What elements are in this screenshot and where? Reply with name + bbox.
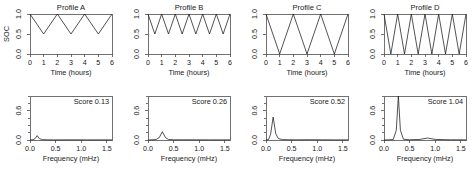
x-tick-label: 1.0 — [76, 145, 86, 153]
x-tick-label: 1 — [278, 59, 282, 67]
x-tick-label: 0.0 — [379, 145, 389, 153]
x-axis-title: Time (hours) — [286, 68, 327, 77]
soc-waveform — [384, 14, 466, 54]
x-tick-label: 1.5 — [338, 145, 348, 153]
x-tick-label: 1.5 — [102, 145, 112, 153]
frequency-spectrum-panel-3: 0.00.60.00.51.01.5Frequency (mHz)Score 0… — [236, 86, 354, 172]
x-tick-label: 4 — [83, 59, 87, 67]
x-tick-label: 0.5 — [169, 145, 179, 153]
x-axis-title: Time (hours) — [404, 68, 445, 77]
soc-waveform — [148, 14, 230, 34]
y-tick-label: 0.5 — [251, 29, 259, 39]
frequency-spectrum-panel-1: 0.00.60.00.51.01.5Frequency (mHz)Score 0… — [0, 86, 118, 172]
y-tick-label: 0.5 — [15, 29, 23, 39]
x-tick-label: 4 — [437, 59, 441, 67]
x-tick-label: 3 — [69, 59, 73, 67]
x-tick-label: 0 — [382, 59, 386, 67]
score-annotation: Score 1.04 — [428, 97, 463, 106]
x-tick-label: 2 — [409, 59, 413, 67]
x-tick-label: 1.0 — [430, 145, 440, 153]
soc-profile-panel-c: 0.00.51.00123456Time (hours)Profile C — [236, 0, 354, 86]
x-axis-title: Frequency (mHz) — [397, 154, 453, 163]
x-tick-label: 1 — [396, 59, 400, 67]
x-tick-label: 4 — [201, 59, 205, 67]
x-tick-label: 5 — [96, 59, 100, 67]
y-tick-label: 0.0 — [251, 135, 259, 145]
x-tick-label: 2 — [173, 59, 177, 67]
soc-waveform — [30, 14, 112, 34]
x-tick-label: 0.0 — [25, 145, 35, 153]
x-tick-label: 0.5 — [51, 145, 61, 153]
x-axis-title: Time (hours) — [50, 68, 91, 77]
x-axis-title: Frequency (mHz) — [161, 154, 217, 163]
y-tick-label: 0.0 — [15, 135, 23, 145]
plot-frame — [148, 14, 230, 54]
x-tick-label: 2 — [291, 59, 295, 67]
x-tick-label: 0.0 — [143, 145, 153, 153]
y-tick-label: 0.5 — [369, 29, 377, 39]
x-tick-label: 1.0 — [194, 145, 204, 153]
x-tick-label: 0.5 — [405, 145, 415, 153]
y-tick-label: 0.6 — [133, 106, 141, 116]
plot-frame — [266, 14, 348, 54]
y-tick-label: 1.0 — [369, 9, 377, 19]
y-tick-label: 0.0 — [369, 135, 377, 145]
x-tick-label: 6 — [464, 59, 468, 67]
figure-panel-grid: 0.00.51.00123456Time (hours)SOCProfile A… — [0, 0, 472, 172]
y-tick-label: 0.0 — [15, 49, 23, 59]
soc-profile-panel-d: 0.00.51.00123456Time (hours)Profile D — [354, 0, 472, 86]
score-annotation: Score 0.52 — [310, 97, 345, 106]
spectrum-trace — [266, 117, 348, 140]
x-tick-label: 1 — [42, 59, 46, 67]
x-tick-label: 1.5 — [456, 145, 466, 153]
frequency-spectrum-panel-2: 0.00.60.00.51.01.5Frequency (mHz)Score 0… — [118, 86, 236, 172]
y-tick-label: 0.0 — [369, 49, 377, 59]
x-tick-label: 6 — [346, 59, 350, 67]
x-tick-label: 4 — [319, 59, 323, 67]
y-tick-label: 0.6 — [251, 106, 259, 116]
panel-title: Profile B — [175, 3, 204, 12]
y-tick-label: 0.0 — [133, 135, 141, 145]
x-tick-label: 5 — [214, 59, 218, 67]
x-tick-label: 0.5 — [287, 145, 297, 153]
score-annotation: Score 0.26 — [192, 97, 227, 106]
x-tick-label: 1 — [160, 59, 164, 67]
spectrum-trace — [30, 136, 112, 140]
x-tick-label: 1.0 — [312, 145, 322, 153]
x-tick-label: 1.5 — [220, 145, 230, 153]
y-tick-label: 0.5 — [133, 29, 141, 39]
x-axis-title: Frequency (mHz) — [279, 154, 335, 163]
y-tick-label: 0.6 — [15, 106, 23, 116]
x-tick-label: 0.0 — [261, 145, 271, 153]
frequency-spectrum-panel-4: 0.00.60.00.51.01.5Frequency (mHz)Score 1… — [354, 86, 472, 172]
y-axis-title: SOC — [2, 26, 11, 42]
x-axis-title: Frequency (mHz) — [43, 154, 99, 163]
x-tick-label: 5 — [450, 59, 454, 67]
y-tick-label: 0.0 — [133, 49, 141, 59]
spectrum-trace — [148, 132, 230, 140]
panel-title: Profile C — [292, 3, 322, 12]
soc-waveform — [266, 14, 348, 54]
x-tick-label: 3 — [423, 59, 427, 67]
y-tick-label: 0.0 — [251, 49, 259, 59]
x-tick-label: 5 — [332, 59, 336, 67]
soc-profile-panel-a: 0.00.51.00123456Time (hours)SOCProfile A — [0, 0, 118, 86]
x-tick-label: 0 — [146, 59, 150, 67]
x-tick-label: 3 — [305, 59, 309, 67]
y-tick-label: 0.6 — [369, 106, 377, 116]
y-tick-label: 1.0 — [251, 9, 259, 19]
x-tick-label: 6 — [228, 59, 232, 67]
score-annotation: Score 0.13 — [74, 97, 109, 106]
x-tick-label: 2 — [55, 59, 59, 67]
panel-title: Profile D — [410, 3, 440, 12]
soc-profile-panel-b: 0.00.51.00123456Time (hours)Profile B — [118, 0, 236, 86]
y-tick-label: 1.0 — [15, 9, 23, 19]
x-tick-label: 0 — [28, 59, 32, 67]
y-tick-label: 1.0 — [133, 9, 141, 19]
x-axis-title: Time (hours) — [168, 68, 209, 77]
x-tick-label: 3 — [187, 59, 191, 67]
x-tick-label: 6 — [110, 59, 114, 67]
x-tick-label: 0 — [264, 59, 268, 67]
panel-title: Profile A — [57, 3, 86, 12]
